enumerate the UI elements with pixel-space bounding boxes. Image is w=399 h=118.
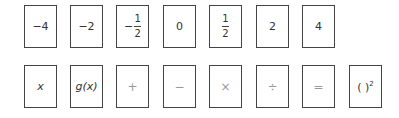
- tile-divide[interactable]: ÷: [256, 65, 289, 108]
- tile-label: 2: [269, 20, 276, 33]
- numerator: 1: [134, 14, 140, 24]
- tile-2[interactable]: 2: [256, 5, 289, 48]
- exponent: 2: [369, 80, 373, 88]
- minus-icon: −: [174, 80, 184, 94]
- parentheses: ( ): [357, 80, 369, 93]
- fraction: 1 2: [134, 14, 141, 39]
- equals-icon: =: [313, 80, 323, 94]
- tile-plus[interactable]: +: [116, 65, 149, 108]
- tile-squared[interactable]: ( )2: [349, 65, 382, 108]
- tile-label: 4: [315, 20, 322, 33]
- multiply-icon: ×: [220, 80, 230, 94]
- tile-x[interactable]: x: [24, 65, 57, 108]
- fraction-bar: [134, 26, 141, 27]
- tile-neg-2[interactable]: −2: [70, 5, 103, 48]
- tile-neg-4[interactable]: −4: [24, 5, 57, 48]
- fraction-bar: [222, 26, 229, 27]
- tile-label: −4: [32, 20, 48, 33]
- tile-minus[interactable]: −: [163, 65, 196, 108]
- plus-icon: +: [127, 80, 137, 94]
- tile-times[interactable]: ×: [209, 65, 242, 108]
- squared-expression: ( )2: [357, 80, 374, 94]
- tile-label: x: [37, 80, 44, 93]
- tile-g-of-x[interactable]: g(x): [70, 65, 103, 108]
- tile-4[interactable]: 4: [302, 5, 335, 48]
- negative-fraction: − 1 2: [124, 14, 141, 39]
- divide-icon: ÷: [267, 80, 277, 94]
- tile-label: −2: [78, 20, 94, 33]
- tile-equals[interactable]: =: [302, 65, 335, 108]
- minus-sign: −: [124, 20, 133, 33]
- denominator: 2: [134, 29, 140, 39]
- fraction: 1 2: [222, 14, 229, 39]
- numerator: 1: [222, 14, 228, 24]
- tile-label: 0: [176, 20, 183, 33]
- tile-one-half[interactable]: 1 2: [209, 5, 242, 48]
- denominator: 2: [222, 29, 228, 39]
- tile-label: g(x): [75, 80, 97, 93]
- tile-0[interactable]: 0: [163, 5, 196, 48]
- tile-neg-one-half[interactable]: − 1 2: [116, 5, 149, 48]
